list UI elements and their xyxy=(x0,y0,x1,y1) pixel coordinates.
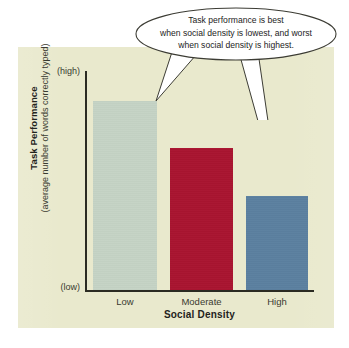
x-axis-label-moderate: Moderate xyxy=(170,296,233,307)
y-axis-title-subtitle: (average number of words correctly typed… xyxy=(40,43,50,212)
bar-low[interactable] xyxy=(93,101,157,290)
y-axis-tick-low: (low) xyxy=(30,282,80,292)
y-axis-line xyxy=(85,71,87,292)
bar-texture xyxy=(170,148,233,290)
x-axis-label-high: High xyxy=(246,296,308,307)
bar-high[interactable] xyxy=(246,196,308,290)
chart-figure: (high) (low) Task Performance (average n… xyxy=(0,0,349,348)
callout-line-1: Task performance is best xyxy=(141,14,331,27)
bar-texture xyxy=(93,101,157,290)
y-axis-title-main: Task Performance xyxy=(28,86,39,169)
callout-line-2: when social density is lowest, and worst xyxy=(141,27,331,40)
y-axis-title: Task Performance (average number of word… xyxy=(22,21,56,236)
bar-texture xyxy=(246,196,308,290)
callout-text: Task performance is best when social den… xyxy=(141,14,331,52)
bar-moderate[interactable] xyxy=(170,148,233,290)
x-axis-label-low: Low xyxy=(93,296,157,307)
callout-line-3: when social density is highest. xyxy=(141,39,331,52)
x-axis-line xyxy=(85,290,314,292)
x-axis-title: Social Density xyxy=(85,309,314,320)
